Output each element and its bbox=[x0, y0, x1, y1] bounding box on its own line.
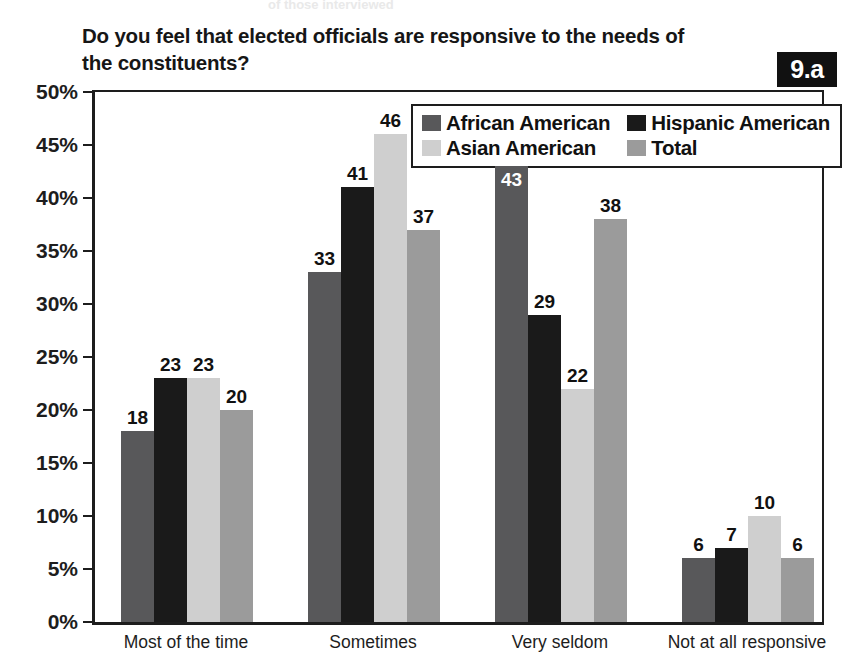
bar-value-label: 7 bbox=[710, 524, 754, 546]
bar-value-label: 23 bbox=[182, 354, 226, 376]
chart-figure: of those interviewed Do you feel that el… bbox=[0, 0, 858, 670]
y-axis-tick-mark bbox=[83, 144, 92, 146]
y-axis-tick-label: 25% bbox=[0, 345, 92, 369]
bar-value-label: 22 bbox=[556, 365, 600, 387]
bar-value-label: 29 bbox=[523, 291, 567, 313]
bar: 38 bbox=[594, 219, 627, 622]
y-axis-tick-label: 15% bbox=[0, 451, 92, 475]
legend-item: Asian American bbox=[422, 136, 610, 160]
bar: 23 bbox=[154, 378, 187, 622]
y-axis-tick-label: 40% bbox=[0, 186, 92, 210]
page-title: Do you feel that elected officials are r… bbox=[82, 22, 742, 76]
bar-value-label: 6 bbox=[776, 534, 820, 556]
bar-value-label: 33 bbox=[303, 248, 347, 270]
x-axis-category-label: Most of the time bbox=[124, 632, 249, 653]
bar: 41 bbox=[341, 187, 374, 622]
legend-color-swatch bbox=[422, 115, 441, 131]
x-axis-category-label: Not at all responsive bbox=[668, 632, 827, 653]
y-axis-tick-mark bbox=[83, 462, 92, 464]
y-axis-tick-label: 30% bbox=[0, 292, 92, 316]
bar-value-label: 43 bbox=[490, 169, 534, 191]
bar: 33 bbox=[308, 272, 341, 622]
y-axis-tick-mark bbox=[83, 515, 92, 517]
bar-value-label: 37 bbox=[402, 206, 446, 228]
bar: 43 bbox=[495, 166, 528, 622]
plot-area: African AmericanHispanic AmericanAsian A… bbox=[92, 90, 824, 625]
x-axis-category-label: Sometimes bbox=[329, 632, 417, 653]
y-axis-tick-mark bbox=[83, 568, 92, 570]
legend-item: Hispanic American bbox=[627, 111, 830, 135]
bar: 6 bbox=[781, 558, 814, 622]
y-axis-tick-label: 20% bbox=[0, 398, 92, 422]
bar: 37 bbox=[407, 230, 440, 622]
legend-color-swatch bbox=[627, 115, 646, 131]
chart-title-line-1: Do you feel that elected officials are r… bbox=[82, 24, 684, 47]
y-axis-tick-label: 10% bbox=[0, 504, 92, 528]
y-axis-tick-label: 35% bbox=[0, 239, 92, 263]
bar: 7 bbox=[715, 548, 748, 622]
legend-label: Hispanic American bbox=[651, 111, 830, 135]
bar: 20 bbox=[220, 410, 253, 622]
bar-value-label: 18 bbox=[116, 407, 160, 429]
bar-value-label: 46 bbox=[369, 110, 413, 132]
legend-color-swatch bbox=[422, 140, 441, 156]
y-axis-tick-label: 0% bbox=[0, 610, 92, 634]
bar: 6 bbox=[682, 558, 715, 622]
bar-value-label: 20 bbox=[215, 386, 259, 408]
figure-number-badge: 9.a bbox=[777, 52, 837, 87]
x-axis-category-label: Very seldom bbox=[512, 632, 608, 653]
y-axis-tick-label: 50% bbox=[0, 80, 92, 104]
y-axis-tick-mark bbox=[83, 621, 92, 623]
y-axis-tick-label: 5% bbox=[0, 557, 92, 581]
bar: 18 bbox=[121, 431, 154, 622]
chart-title-line-2: the constituents? bbox=[82, 49, 742, 76]
cropped-header-text: of those interviewed bbox=[268, 0, 598, 9]
y-axis-tick-mark bbox=[83, 250, 92, 252]
legend-color-swatch bbox=[627, 140, 646, 156]
chart-legend: African AmericanHispanic AmericanAsian A… bbox=[411, 104, 842, 168]
y-axis-tick-mark bbox=[83, 409, 92, 411]
bar: 10 bbox=[748, 516, 781, 622]
legend-item: Total bbox=[627, 136, 830, 160]
y-axis-tick-mark bbox=[83, 197, 92, 199]
y-axis-tick-mark bbox=[83, 356, 92, 358]
bar: 22 bbox=[561, 389, 594, 622]
plot-inner: African AmericanHispanic AmericanAsian A… bbox=[95, 92, 822, 622]
bar-value-label: 38 bbox=[589, 195, 633, 217]
bar: 23 bbox=[187, 378, 220, 622]
bar-value-label: 41 bbox=[336, 163, 380, 185]
y-axis-tick-label: 45% bbox=[0, 133, 92, 157]
legend-label: African American bbox=[446, 111, 610, 135]
bar: 29 bbox=[528, 315, 561, 622]
y-axis-tick-mark bbox=[83, 91, 92, 93]
legend-label: Total bbox=[651, 136, 697, 160]
legend-item: African American bbox=[422, 111, 610, 135]
y-axis-tick-mark bbox=[83, 303, 92, 305]
legend-label: Asian American bbox=[446, 136, 596, 160]
bar-value-label: 10 bbox=[743, 492, 787, 514]
